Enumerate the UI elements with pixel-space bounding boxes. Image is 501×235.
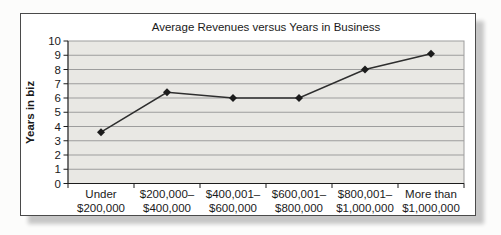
svg-text:7: 7 xyxy=(55,78,61,90)
svg-text:5: 5 xyxy=(55,106,61,118)
svg-text:$200,000: $200,000 xyxy=(77,202,125,214)
svg-text:4: 4 xyxy=(55,121,62,133)
chart-box: Average Revenues versus Years in Busines… xyxy=(20,13,476,216)
svg-text:9: 9 xyxy=(55,49,61,61)
svg-text:0: 0 xyxy=(55,178,61,190)
svg-text:1: 1 xyxy=(55,163,61,175)
svg-text:$200,000–: $200,000– xyxy=(140,188,195,200)
svg-text:6: 6 xyxy=(55,92,61,104)
svg-text:$1,000,000: $1,000,000 xyxy=(402,202,460,214)
svg-text:$800,000: $800,000 xyxy=(275,202,323,214)
svg-text:More than: More than xyxy=(405,188,457,200)
figure-page: { "chart_data": { "type": "line", "title… xyxy=(0,0,501,235)
svg-text:8: 8 xyxy=(55,64,61,76)
svg-text:10: 10 xyxy=(48,35,61,47)
svg-text:3: 3 xyxy=(55,135,61,147)
chart-plot: 012345678910Under$200,000$200,000–$400,0… xyxy=(21,14,477,217)
svg-text:Under: Under xyxy=(85,188,116,200)
svg-text:$600,000: $600,000 xyxy=(209,202,257,214)
svg-text:$400,001–: $400,001– xyxy=(206,188,261,200)
svg-text:$600,001–: $600,001– xyxy=(272,188,327,200)
svg-text:$1,000,000: $1,000,000 xyxy=(336,202,394,214)
svg-text:$800,001–: $800,001– xyxy=(338,188,393,200)
svg-text:$400,000: $400,000 xyxy=(143,202,191,214)
svg-text:2: 2 xyxy=(55,149,61,161)
